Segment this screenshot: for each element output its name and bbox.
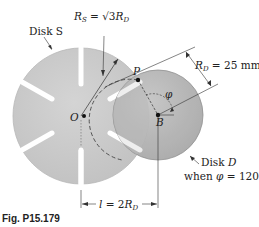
label-disk-d-condition: when φ = 120° (184, 170, 259, 182)
point-p-dot (136, 78, 140, 82)
label-b: B (155, 116, 164, 128)
label-disk-d: Disk D (201, 156, 237, 168)
point-o-dot (82, 114, 86, 118)
label-rd: RD = 25 mm (194, 59, 259, 73)
label-rs: RS = √3RD (73, 10, 129, 24)
label-o: O (70, 111, 79, 123)
label-p: P (132, 65, 141, 77)
label-l: l = 2RD (99, 198, 138, 212)
label-disk-s: Disk S (29, 25, 63, 37)
figure-caption: Fig. P15.179 (2, 213, 60, 224)
diagram-canvas: Disk S RS = √3RD RD = 25 mm P O B φ Disk… (0, 0, 259, 227)
label-phi: φ (165, 88, 173, 100)
